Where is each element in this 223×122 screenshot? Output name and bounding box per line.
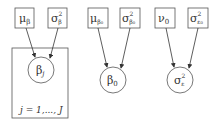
edge-mu-beta0-to-beta-0 — [98, 28, 107, 67]
edge-sigma2-eps0-to-sigma2-eps — [189, 28, 198, 68]
edge-sigma2-beta0-to-beta-0 — [121, 28, 130, 68]
group-beta-0: μβ₀ σ2β₀ β0 — [88, 8, 140, 93]
plate-label: j = 1,..., J — [18, 105, 64, 115]
svg-text:μβ: μβ — [19, 12, 30, 26]
edge-sigma2-beta-to-beta-j — [50, 28, 58, 58]
svg-text:β0: β0 — [107, 74, 118, 88]
edge-nu0-to-sigma2-eps — [166, 28, 174, 67]
graphical-model-diagram: μβ σ2β βj j = 1,..., J μβ₀ σ2β₀ β0 ν0 σ2… — [0, 0, 223, 122]
group-beta-j: μβ σ2β βj j = 1,..., J — [12, 8, 68, 118]
svg-text:σ2β: σ2β — [51, 10, 63, 26]
group-sigma2-eps: ν0 σ2ε₀ σ2ε — [155, 8, 208, 93]
svg-text:μβ₀: μβ₀ — [90, 12, 104, 26]
svg-text:σ2β₀: σ2β₀ — [122, 10, 136, 26]
svg-text:ν0: ν0 — [158, 12, 169, 26]
svg-text:σ2ε: σ2ε — [174, 72, 186, 87]
svg-text:σ2ε₀: σ2ε₀ — [190, 10, 203, 25]
svg-text:βj: βj — [36, 64, 45, 78]
edge-mu-beta-to-beta-j — [26, 28, 35, 57]
